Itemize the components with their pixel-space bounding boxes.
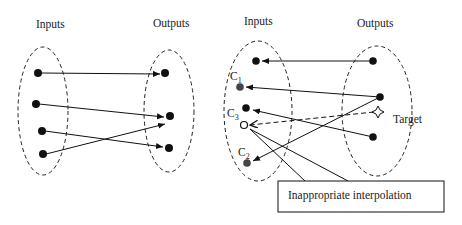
output-node: [165, 144, 173, 152]
input-node: [32, 100, 40, 108]
interpolated-point: [241, 122, 248, 129]
left-panel: Inputs Outputs: [18, 17, 194, 175]
output-node: [376, 93, 384, 101]
right-inputs-label: Inputs: [244, 15, 273, 28]
left-output-set: [144, 50, 194, 172]
input-node: [39, 150, 47, 158]
target-label: Target: [393, 113, 423, 126]
candidate-c3: [242, 104, 250, 112]
callout-text: Inappropriate interpolation: [288, 189, 412, 202]
callout-pointer: [250, 129, 305, 181]
target-star-icon: [372, 106, 384, 118]
input-node: [34, 69, 42, 77]
mapping-arrow: [39, 104, 164, 117]
output-node: [369, 133, 377, 141]
interpolation-diagram: Inputs Outputs Inputs Outputs: [0, 0, 462, 225]
mapping-arrow: [41, 73, 160, 74]
output-node: [161, 69, 169, 77]
inverse-arrow: [246, 87, 380, 97]
right-outputs-label: Outputs: [357, 17, 394, 30]
input-node: [38, 127, 46, 135]
left-inputs-label: Inputs: [36, 18, 65, 31]
inverse-arrow: [253, 97, 380, 161]
c1-label: C1: [230, 70, 242, 85]
left-outputs-label: Outputs: [153, 17, 190, 30]
output-node: [369, 57, 377, 65]
right-panel: Inputs Outputs Target C1 C3 C2 Inappr: [224, 15, 444, 212]
input-node: [252, 57, 260, 65]
output-node: [166, 112, 174, 120]
c3-label: C3: [227, 107, 239, 122]
c2-label: C2: [238, 146, 250, 161]
